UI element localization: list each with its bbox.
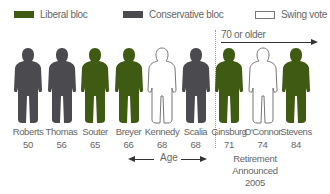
age-arrow-right-icon [200, 156, 207, 162]
justice-figure-icon [13, 46, 43, 124]
age-axis-label: Age [160, 152, 178, 163]
justice-figure-icon [114, 46, 144, 124]
age-arrow-left-line [134, 159, 154, 160]
older-arrowhead-icon [311, 39, 318, 45]
retirement-line3: 2005 [225, 177, 285, 189]
legend-liberal: Liberal bloc [14, 9, 88, 20]
legend-conservative: Conservative bloc [123, 9, 223, 20]
older-label: 70 or older [221, 29, 266, 40]
older-arrow-line [221, 42, 311, 43]
retirement-line1: Retirement [225, 153, 285, 165]
legend-conservative-label: Conservative bloc [149, 9, 223, 20]
retirement-annotation: Retirement Announced 2005 [225, 153, 285, 189]
justice-figure-icon [181, 46, 211, 124]
legend-liberal-label: Liberal bloc [40, 9, 88, 20]
justice-age: 84 [276, 139, 316, 151]
justice-figure-icon [47, 46, 77, 124]
retirement-line2: Announced [225, 165, 285, 177]
liberal-swatch [14, 11, 34, 18]
justice-figure-icon [80, 46, 110, 124]
justice-figure-icon [214, 46, 244, 124]
swing-swatch [255, 11, 275, 19]
conservative-swatch [123, 11, 143, 18]
justice-figure-icon [281, 46, 311, 124]
age-arrow-right-line [181, 159, 201, 160]
legend-swing-label: Swing vote [281, 9, 327, 20]
justice-figure-icon [147, 46, 177, 124]
legend-swing: Swing vote [255, 9, 327, 20]
justice-name: Stevens [276, 126, 316, 138]
justice-figure-icon [248, 46, 278, 124]
